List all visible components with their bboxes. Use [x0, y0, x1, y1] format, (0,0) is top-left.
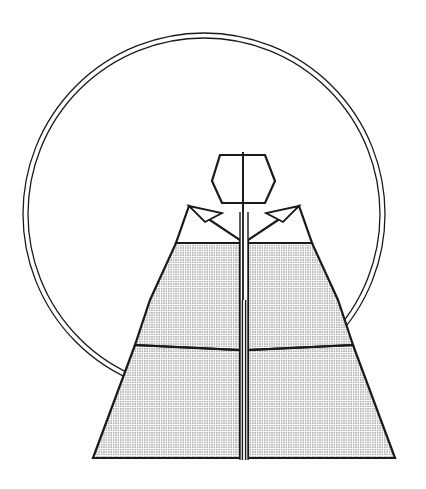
illustration-canvas — [0, 0, 426, 489]
figure-root — [0, 0, 426, 489]
